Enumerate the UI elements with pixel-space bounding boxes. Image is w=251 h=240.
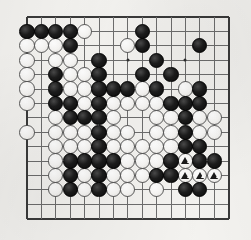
triangle-outline	[196, 172, 204, 179]
triangle-fill	[201, 174, 205, 178]
board-mark-layer	[0, 0, 251, 240]
triangle-outline	[181, 157, 189, 164]
triangle-outline	[210, 172, 218, 179]
triangle-fill	[187, 174, 191, 178]
go-board-diagram: Go board position	[0, 0, 251, 240]
triangle-outline	[181, 172, 189, 179]
triangle-fill	[187, 159, 191, 163]
triangle-fill	[216, 174, 220, 178]
